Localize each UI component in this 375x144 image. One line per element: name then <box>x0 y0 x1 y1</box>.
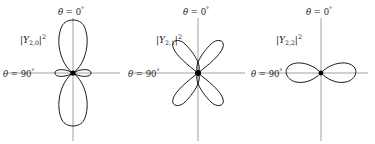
harmonic-subscript: 2,2 <box>285 39 295 46</box>
lower-left-lobe <box>173 73 200 106</box>
harmonic-superscript: 2 <box>298 33 302 40</box>
upper-left-lobe <box>173 40 200 73</box>
harmonic-subscript: 2,1 <box>165 39 175 46</box>
theta-zero-label-Y22: θ = 0° <box>306 6 332 16</box>
theta-ninety-value: 90° <box>146 69 160 79</box>
harmonic-subscript: 2,0 <box>29 39 39 46</box>
equals-symbol: = <box>136 69 143 79</box>
theta-zero-label-Y20: θ = 0° <box>58 6 84 16</box>
theta-symbol: θ <box>183 7 188 17</box>
equals-symbol: = <box>11 69 18 79</box>
harmonic-superscript: 2 <box>42 33 46 40</box>
panel-Y21: θ = 0° θ = 90° |Y2,1|2 <box>125 0 250 144</box>
equals-symbol: = <box>259 69 266 79</box>
equals-symbol: = <box>314 7 321 17</box>
origin-node <box>195 70 201 76</box>
origin-node <box>319 71 324 76</box>
theta-zero-value: 0° <box>324 7 332 17</box>
function-label-Y22: |Y2,2|2 <box>276 34 302 45</box>
equals-symbol: = <box>66 7 73 17</box>
theta-zero-value: 0° <box>201 7 209 17</box>
function-label-Y21: |Y2,1|2 <box>156 34 182 45</box>
theta-symbol: θ <box>306 7 311 17</box>
theta-ninety-label-Y21: θ = 90° <box>128 68 159 78</box>
theta-zero-label-Y21: θ = 0° <box>183 6 209 16</box>
lower-right-lobe <box>197 73 224 106</box>
panel-Y22: θ = 0° θ = 90° |Y2,2|2 <box>250 0 375 144</box>
equals-symbol: = <box>191 7 198 17</box>
theta-zero-value: 0° <box>76 7 84 17</box>
spherical-harmonics-figure: θ = 0° θ = 90° |Y2,0|2 θ = <box>0 0 375 144</box>
theta-symbol: θ <box>58 7 63 17</box>
panel-Y20: θ = 0° θ = 90° |Y2,0|2 <box>0 0 125 144</box>
theta-symbol: θ <box>251 69 256 79</box>
theta-symbol: θ <box>128 69 133 79</box>
theta-ninety-value: 90° <box>21 69 35 79</box>
theta-ninety-label-Y20: θ = 90° <box>3 68 34 78</box>
theta-symbol: θ <box>3 69 8 79</box>
harmonic-superscript: 2 <box>178 33 182 40</box>
origin-node <box>70 70 75 75</box>
theta-ninety-value: 90° <box>269 69 283 79</box>
upper-right-lobe <box>197 40 224 73</box>
function-label-Y20: |Y2,0|2 <box>20 34 46 45</box>
theta-ninety-label-Y22: θ = 90° <box>251 68 282 78</box>
